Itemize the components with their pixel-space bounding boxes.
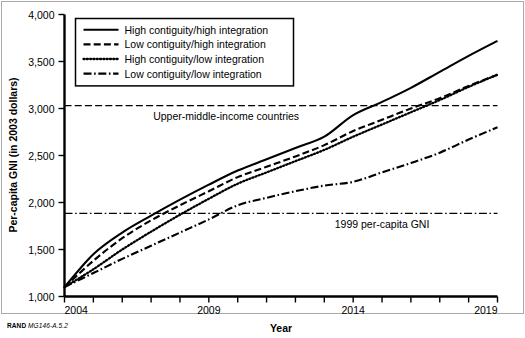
legend-label: High contiguity/high integration bbox=[125, 24, 269, 36]
x-tick-label: 2009 bbox=[197, 304, 221, 316]
legend-label: Low contiguity/high integration bbox=[125, 38, 266, 50]
y-tick-label: 4,000 bbox=[28, 9, 54, 21]
figure-container: 1,0001,5002,0002,5003,0003,5004,00020042… bbox=[0, 0, 525, 338]
per-capita-gni-line-chart: 1,0001,5002,0002,5003,0003,5004,00020042… bbox=[0, 0, 525, 338]
y-tick-label: 1,000 bbox=[28, 291, 54, 303]
y-tick-label: 2,000 bbox=[28, 197, 54, 209]
y-axis: 1,0001,5002,0002,5003,0003,5004,000 bbox=[28, 9, 64, 303]
y-tick-label: 3,500 bbox=[28, 56, 54, 68]
rand-brand-label: RAND bbox=[7, 322, 26, 329]
legend-label: Low contiguity/low integration bbox=[125, 68, 262, 80]
legend-label: High contiguity/low integration bbox=[125, 53, 265, 65]
x-axis-title: Year bbox=[270, 322, 292, 334]
y-tick-label: 3,000 bbox=[28, 103, 54, 115]
reference-line-label: Upper-middle-income countries bbox=[153, 110, 299, 122]
x-tick-label: 2014 bbox=[341, 304, 365, 316]
reference-line-label: 1999 per-capita GNI bbox=[335, 218, 430, 230]
x-tick-label: 2019 bbox=[474, 304, 498, 316]
rand-figure-code: MG146-A.5.2 bbox=[28, 322, 68, 329]
series-line bbox=[65, 75, 498, 287]
figure-source-note: RAND MG146-A.5.2 bbox=[7, 322, 68, 329]
y-tick-label: 1,500 bbox=[28, 244, 54, 256]
y-axis-title: Per-capita GNI (in 2003 dollars) bbox=[7, 77, 19, 232]
series-line bbox=[65, 127, 498, 287]
y-tick-label: 2,500 bbox=[28, 150, 54, 162]
x-tick-label: 2004 bbox=[65, 304, 89, 316]
chart-legend: High contiguity/high integrationLow cont… bbox=[76, 19, 294, 86]
series-line bbox=[65, 75, 498, 287]
